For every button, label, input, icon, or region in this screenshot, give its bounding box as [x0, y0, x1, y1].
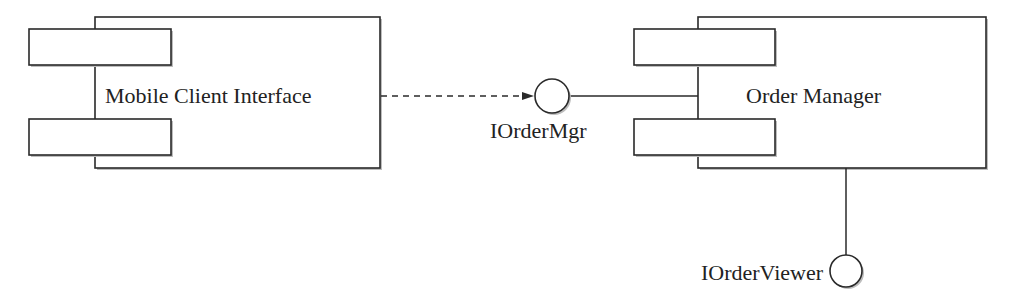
component-port-bottom [634, 119, 775, 155]
lollipop-interface-icon [535, 79, 569, 113]
interface-label: IOrderMgr [490, 118, 587, 143]
component-diagram: Mobile Client Interface IOrderMgr Order … [0, 0, 1009, 307]
component-port-top [634, 29, 775, 65]
component-label: Order Manager [746, 83, 882, 108]
component-order-manager[interactable]: Order Manager [634, 17, 988, 170]
component-label: Mobile Client Interface [105, 83, 311, 108]
interface-iorderviewer[interactable]: IOrderViewer [701, 168, 864, 289]
component-port-top [29, 29, 171, 65]
interface-label: IOrderViewer [701, 260, 824, 285]
component-port-bottom [29, 119, 171, 155]
component-mobile-client-interface[interactable]: Mobile Client Interface [29, 17, 382, 170]
lollipop-interface-icon [830, 255, 862, 287]
